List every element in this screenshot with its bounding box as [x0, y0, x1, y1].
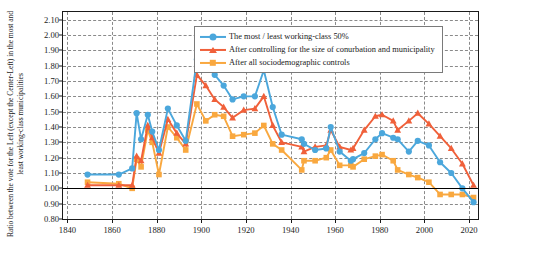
y-axis-label: Ratio between the vote for the Left (exc…: [6, 8, 27, 240]
plot-area: 0.800.901.001.101.201.301.401.501.601.70…: [62, 11, 479, 220]
data-point: [129, 165, 135, 171]
data-point: [145, 112, 151, 118]
data-point: [174, 122, 180, 128]
data-point: [138, 164, 144, 170]
data-point: [448, 170, 454, 176]
data-point: [361, 156, 367, 162]
x-tick-mark: [246, 219, 247, 223]
legend-label-0: The most / least working-class 50%: [229, 32, 349, 41]
data-point: [301, 158, 307, 164]
chart-figure: Ratio between the vote for the Left (exc…: [0, 0, 541, 266]
data-point: [252, 93, 258, 99]
data-point: [221, 83, 227, 89]
data-point: [230, 133, 236, 139]
x-tick-mark: [67, 219, 68, 223]
reference-line-1.00: [63, 188, 478, 189]
data-point: [437, 159, 443, 165]
data-point: [395, 167, 401, 173]
legend-item-0: The most / least working-class 50%: [200, 30, 435, 43]
data-point: [312, 147, 318, 153]
data-point: [373, 153, 379, 159]
data-point: [372, 136, 378, 142]
data-point: [323, 155, 329, 161]
data-point: [414, 110, 421, 116]
legend-item-1: After controlling for the size of conurb…: [200, 43, 435, 56]
data-point: [312, 158, 318, 164]
data-point: [337, 163, 343, 169]
data-point: [460, 192, 466, 198]
x-tick-mark: [112, 219, 113, 223]
x-tick-mark: [157, 219, 158, 223]
data-point: [194, 101, 200, 107]
data-point: [279, 132, 285, 138]
data-point: [448, 192, 454, 198]
data-point: [390, 158, 396, 164]
data-point: [156, 172, 162, 178]
x-tick-mark: [469, 219, 470, 223]
x-tick-mark: [380, 219, 381, 223]
data-point: [323, 145, 329, 151]
legend-item-2: After all sociodemographic controls: [200, 56, 435, 69]
data-point: [415, 138, 421, 144]
data-point: [221, 113, 227, 119]
data-point: [337, 148, 343, 154]
data-point: [156, 147, 162, 153]
triangle-marker-icon: [200, 44, 226, 55]
data-point: [437, 192, 443, 198]
data-point: [261, 123, 267, 129]
chart-legend: The most / least working-class 50% After…: [194, 26, 443, 73]
data-point: [203, 118, 209, 124]
circle-marker-icon: [200, 31, 226, 42]
data-point: [252, 130, 258, 136]
data-point: [134, 110, 140, 116]
data-point: [138, 136, 144, 142]
data-point: [229, 96, 235, 102]
data-point: [269, 122, 276, 128]
data-point: [406, 148, 412, 154]
data-point: [406, 172, 412, 178]
legend-symbol: [210, 59, 216, 65]
data-point: [301, 141, 307, 147]
data-point: [84, 171, 90, 177]
legend-symbol: [209, 47, 217, 53]
data-point: [241, 93, 247, 99]
data-point: [260, 93, 267, 99]
legend-symbol: [210, 33, 217, 40]
x-tick-mark: [291, 219, 292, 223]
x-tick-mark: [201, 219, 202, 223]
data-point: [361, 150, 367, 156]
data-point: [379, 130, 385, 136]
data-point: [183, 138, 189, 144]
data-point: [350, 164, 356, 170]
data-point: [183, 147, 189, 153]
data-point: [279, 147, 285, 153]
legend-label-1: After controlling for the size of conurb…: [229, 45, 435, 54]
data-point: [241, 132, 247, 138]
data-point: [395, 136, 401, 142]
data-point: [116, 171, 122, 177]
data-point: [212, 112, 218, 118]
x-tick-mark: [424, 219, 425, 223]
data-point: [426, 142, 432, 148]
data-point: [299, 167, 305, 173]
data-point: [270, 104, 276, 110]
data-point: [328, 124, 334, 130]
data-point: [426, 179, 432, 185]
data-point: [415, 175, 421, 181]
data-point: [350, 156, 356, 162]
data-point: [379, 152, 385, 158]
legend-label-2: After all sociodemographic controls: [229, 58, 350, 67]
data-point: [270, 141, 276, 147]
data-point: [470, 199, 476, 205]
data-point: [165, 106, 171, 112]
data-point: [149, 129, 155, 135]
data-point: [379, 111, 386, 117]
square-marker-icon: [200, 57, 226, 68]
x-tick-mark: [335, 219, 336, 223]
